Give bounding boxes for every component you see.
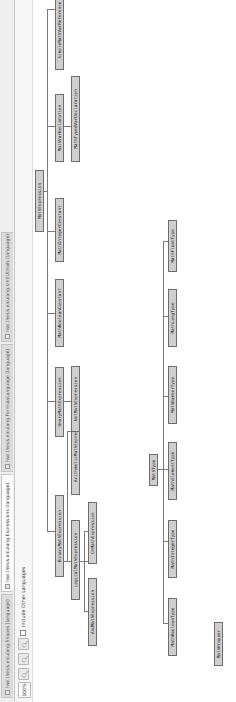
node-math-wrapper[interactable]: MathWrapper bbox=[214, 622, 223, 666]
tab-label: hse.thesis.eiculang.Shapes (language) bbox=[5, 599, 10, 688]
node-math-integer-type[interactable]: MathIntegerType bbox=[168, 520, 177, 578]
node-math-var-declaration[interactable]: MathVarDeclaration bbox=[55, 94, 64, 162]
include-other-languages-label[interactable]: Include Other Languages bbox=[18, 567, 29, 627]
tab-label: hse.thesis.eiculang.FormulaLanguage (lan… bbox=[5, 349, 10, 462]
edge bbox=[67, 432, 68, 562]
tab-label: hse.thesis.eiculang.smtlUtmals (language… bbox=[5, 234, 10, 332]
node-math-boolean-type[interactable]: MathBooleanType bbox=[168, 598, 177, 656]
hierarchy-diagram: MathExpression BinaryMathExpression Unar… bbox=[33, 0, 236, 702]
zoom-fit-icon: 🔍︎ bbox=[21, 640, 28, 648]
node-binary-math-expression[interactable]: BinaryMathExpression bbox=[55, 495, 64, 577]
edge bbox=[47, 10, 48, 532]
node-or-math-expression[interactable]: OrMathExpression bbox=[88, 502, 97, 564]
language-icon bbox=[5, 464, 10, 469]
diagram-toolbar: 100% 🔍︎ 🔍︎ 🔍︎ Include Other Languages bbox=[15, 0, 33, 702]
tab-label: hse.thesis.eiculang.Expressions (languag… bbox=[5, 483, 10, 582]
node-math-float-type[interactable]: MathFloatType bbox=[168, 220, 177, 272]
zoom-in-button[interactable]: 🔍︎ bbox=[18, 668, 29, 680]
zoom-out-button[interactable]: 🔍︎ bbox=[18, 653, 29, 665]
node-math-number-type[interactable]: MathNumberType bbox=[168, 366, 177, 424]
include-other-languages-checkbox[interactable] bbox=[20, 630, 26, 636]
tab-shapes-language[interactable]: hse.thesis.eiculang.Shapes (language) bbox=[1, 594, 13, 698]
language-icon bbox=[5, 334, 10, 339]
node-math-type[interactable]: MathType bbox=[149, 454, 158, 486]
editor-tab-bar: hse.thesis.eiculang.Shapes (language) hs… bbox=[0, 0, 15, 702]
hierarchy-editor: hse.thesis.eiculang.Shapes (language) hs… bbox=[0, 0, 236, 702]
edge bbox=[163, 241, 164, 624]
node-math-element-type[interactable]: MathElementType bbox=[168, 442, 177, 500]
node-not-math-expression[interactable]: NotMathExpression bbox=[71, 366, 80, 432]
language-icon bbox=[5, 584, 10, 589]
zoom-level[interactable]: 100% bbox=[18, 682, 31, 698]
tab-formula-language[interactable]: hse.thesis.eiculang.FormulaLanguage (lan… bbox=[1, 344, 13, 472]
edge bbox=[84, 532, 85, 612]
tab-smtl-language[interactable]: hse.thesis.eiculang.smtlUtmals (language… bbox=[1, 232, 13, 342]
language-icon bbox=[5, 690, 10, 695]
zoom-in-icon: 🔍︎ bbox=[21, 670, 28, 678]
node-logical-math-expression[interactable]: LogicalMathExpression bbox=[71, 520, 80, 600]
node-unary-math-expression[interactable]: UnaryMathExpression bbox=[55, 367, 64, 437]
node-math-integer-constant[interactable]: MathIntegerConstant bbox=[55, 198, 64, 262]
node-math-expression[interactable]: MathExpression bbox=[35, 170, 44, 232]
tab-expressions-language[interactable]: hse.thesis.eiculang.Expressions (languag… bbox=[1, 474, 13, 592]
node-math-typed-var-declaration[interactable]: MathTypedVarDeclaration bbox=[71, 76, 80, 162]
zoom-fit-button[interactable]: 🔍︎ bbox=[18, 638, 29, 650]
node-and-math-expression[interactable]: AndMathExpression bbox=[88, 578, 97, 646]
node-math-long-type[interactable]: MathLongType bbox=[168, 289, 177, 347]
zoom-out-icon: 🔍︎ bbox=[21, 655, 28, 663]
node-simple-math-var-reference[interactable]: SimpleMathVarReference bbox=[55, 0, 64, 70]
node-math-boolean-constant[interactable]: MathBooleanConstant bbox=[55, 279, 64, 347]
